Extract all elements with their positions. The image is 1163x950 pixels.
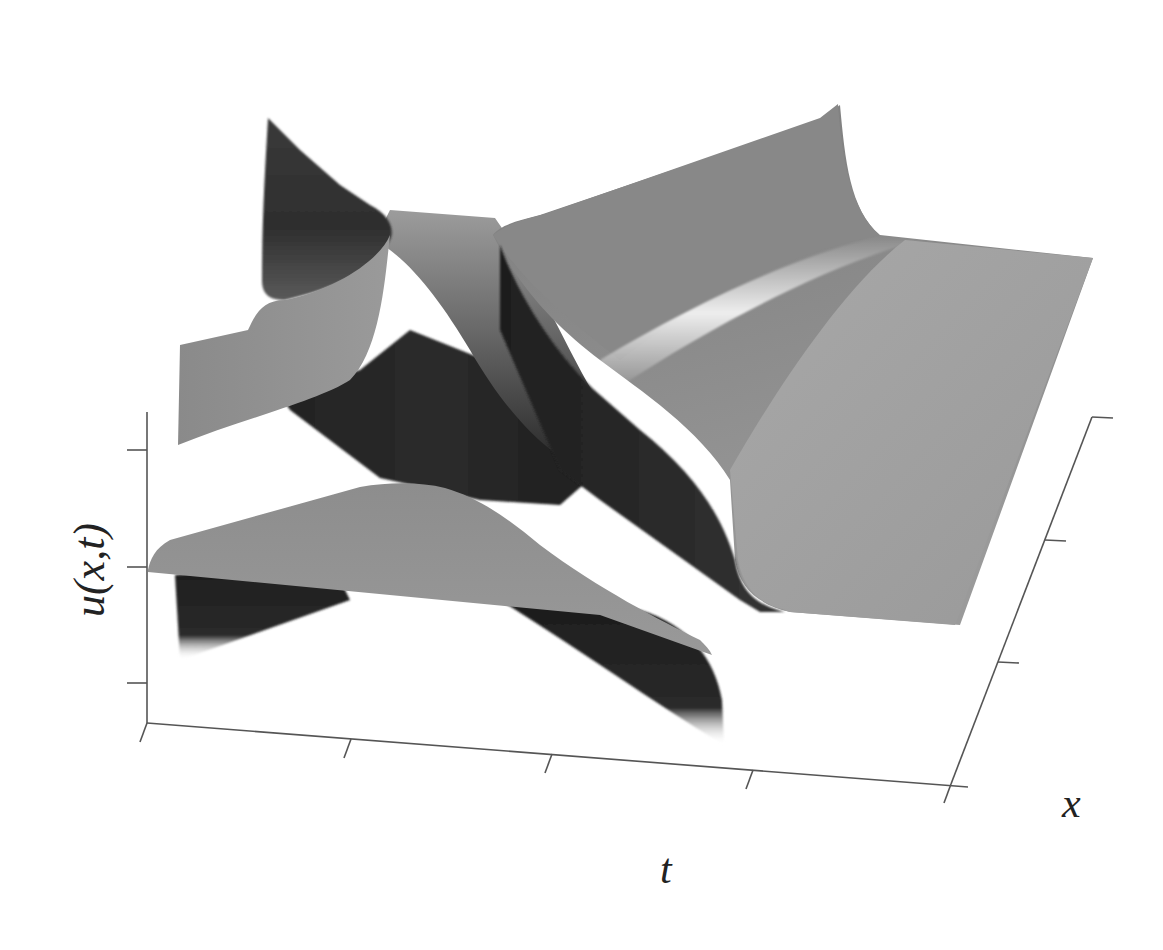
t-axis-tick — [545, 754, 552, 773]
t-axis-tick — [944, 784, 951, 803]
x-axis-tick — [998, 662, 1019, 663]
x-axis-tick — [1092, 417, 1113, 418]
surface-plot — [0, 0, 1163, 950]
z-axis-label: u(x,t) — [68, 523, 112, 617]
t-axis-tick — [344, 739, 351, 758]
surface — [148, 104, 1093, 745]
x-axis-tick — [1045, 540, 1066, 541]
t-axis-tick — [746, 770, 753, 789]
x-axis-label: x — [1062, 782, 1081, 824]
t-axis-tick — [140, 723, 147, 742]
t-axis-line — [147, 723, 968, 787]
t-axis-label: t — [660, 848, 672, 890]
